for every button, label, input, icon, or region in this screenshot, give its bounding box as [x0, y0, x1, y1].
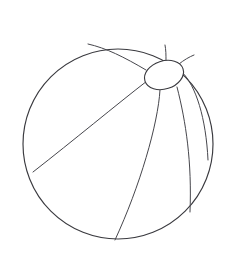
- drawing-canvas: [0, 0, 231, 272]
- beach-ball-illustration: [0, 0, 231, 272]
- ball-outline: [23, 49, 213, 239]
